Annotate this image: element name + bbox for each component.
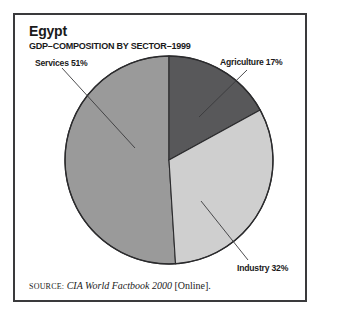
chart-figure: Egypt GDP–COMPOSITION BY SECTOR–1999	[0, 0, 339, 321]
figure-inner: Egypt GDP–COMPOSITION BY SECTOR–1999	[15, 15, 305, 300]
source-suffix: [Online].	[174, 280, 210, 291]
label-industry: Industry 32%	[237, 263, 289, 273]
pie-slice-services[interactable]	[65, 56, 176, 264]
label-services: Services 51%	[35, 58, 88, 68]
source-label: SOURCE:	[29, 282, 64, 291]
pie-chart-svg: Services 51% Agriculture 17% Industry 32…	[15, 15, 305, 300]
label-agriculture: Agriculture 17%	[220, 57, 283, 67]
pie-chart: Services 51% Agriculture 17% Industry 32…	[15, 15, 305, 300]
figure-frame: Egypt GDP–COMPOSITION BY SECTOR–1999	[13, 13, 307, 302]
source-citation: CIA World Factbook 2000	[67, 280, 172, 291]
source-note: SOURCE: CIA World Factbook 2000 [Online]…	[29, 280, 211, 291]
